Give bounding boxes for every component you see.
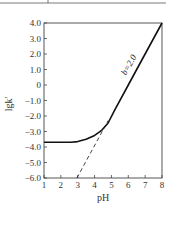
slope-annotation: b=2.0 (119, 53, 139, 77)
chart: 4.03.02.01.00−1.0−2.0−3.0−4.0−5.0−6.0 12… (0, 0, 177, 234)
y-tick-label: −6.0 (25, 173, 42, 183)
x-tick-label: 5 (109, 180, 114, 190)
y-tick-label: 4.0 (30, 18, 42, 28)
y-tick-label: 1.0 (30, 65, 42, 75)
x-tick-label: 4 (92, 180, 97, 190)
y-tick-label: −3.0 (25, 127, 42, 137)
x-tick-label: 8 (160, 180, 165, 190)
y-tick-label: 3.0 (30, 34, 42, 44)
x-tick-label: 2 (59, 180, 64, 190)
x-axis-title: pH (97, 192, 109, 203)
y-tick-label: −1.0 (25, 96, 42, 106)
x-axis-ticks: 12345678 (42, 175, 165, 190)
x-tick-label: 7 (143, 180, 148, 190)
series-layer (44, 23, 162, 178)
x-tick-label: 1 (42, 180, 47, 190)
x-tick-label: 6 (126, 180, 131, 190)
annotation-layer: b=2.0 (119, 53, 139, 77)
y-axis-title: lgk' (3, 97, 14, 112)
y-tick-label: 2.0 (30, 49, 42, 59)
y-tick-label: 0 (37, 80, 42, 90)
x-tick-label: 3 (75, 180, 80, 190)
y-tick-label: −5.0 (25, 158, 42, 168)
y-tick-label: −4.0 (25, 142, 42, 152)
lgk-curve (44, 23, 162, 142)
y-tick-label: −2.0 (25, 111, 42, 121)
plot-frame (44, 23, 162, 178)
